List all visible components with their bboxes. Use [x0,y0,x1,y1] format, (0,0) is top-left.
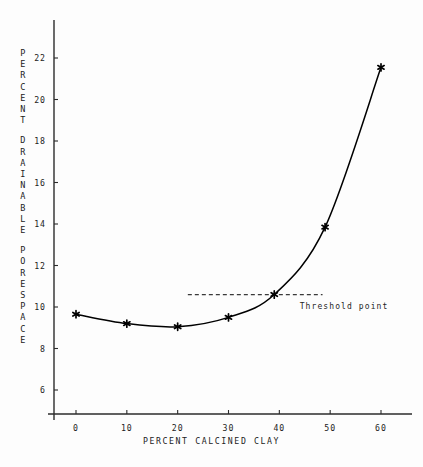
chart-page: PERCENT DRAINABLE PORESPACE 681012141618… [0,0,423,467]
threshold-point-label: Threshold point [300,302,389,311]
axes-lines [48,20,412,420]
plot-area [0,0,423,467]
data-point-marker [378,64,384,71]
data-point-marker [322,224,328,231]
data-curve [76,67,381,327]
x-axis-title: PERCENT CALCINED CLAY [0,436,423,446]
